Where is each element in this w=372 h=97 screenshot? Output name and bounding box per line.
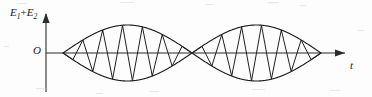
- lower-envelope-curve: [63, 53, 321, 81]
- y-axis-label: E1+E2: [10, 7, 37, 21]
- origin-label: O: [33, 45, 41, 56]
- upper-envelope-curve: [63, 25, 321, 53]
- y-axis-label-sub2: 2: [33, 12, 37, 21]
- x-axis-label: t: [350, 60, 353, 71]
- waveform-canvas: [0, 0, 372, 97]
- beats-waveform-figure: E1+E2 O t: [0, 0, 372, 97]
- y-axis-label-e1: E: [10, 6, 17, 18]
- y-axis-arrowhead: [42, 13, 49, 23]
- x-axis-arrowhead: [335, 49, 345, 56]
